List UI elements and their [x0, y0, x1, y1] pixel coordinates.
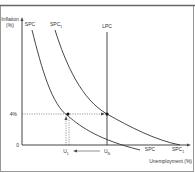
y-axis-label-line2: (%)	[6, 22, 14, 28]
frame-border	[1, 6, 194, 172]
phillips-curve-diagram: Inflation (%) Unemployment (%) 0 LPC SPC…	[0, 0, 195, 173]
origin-label: 0	[16, 142, 19, 148]
point-spc-4pct	[66, 112, 69, 115]
diagram-frame: Inflation (%) Unemployment (%) 0 LPC SPC…	[0, 0, 195, 173]
x-axis-label: Unemployment (%)	[149, 158, 192, 164]
point-spc1-lpc	[105, 112, 108, 115]
spc-bottom-label: SPC	[145, 146, 156, 152]
lpc-label: LPC	[102, 23, 112, 29]
inflation-4pct-label: 4%	[10, 111, 18, 117]
spc-top-label: SPC	[25, 21, 36, 27]
